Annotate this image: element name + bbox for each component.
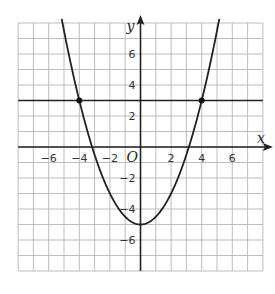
origin-label: O <box>127 149 139 165</box>
coordinate-plane: −6−4−2246642−2−4−6 x y O <box>0 0 275 294</box>
x-tick-label: 2 <box>168 152 175 165</box>
intersection-point <box>76 98 82 104</box>
x-tick-label: −4 <box>71 152 87 165</box>
x-tick-label: 4 <box>198 152 205 165</box>
y-tick-label: −6 <box>119 234 135 247</box>
x-tick-label: 6 <box>229 152 236 165</box>
y-tick-label: −2 <box>119 172 135 185</box>
y-tick-label: 4 <box>129 79 136 92</box>
y-axis-label: y <box>126 18 136 34</box>
x-tick-label: −2 <box>102 152 118 165</box>
y-tick-label: 6 <box>129 48 136 61</box>
y-tick-label: 2 <box>129 110 136 123</box>
x-axis-label: x <box>257 130 265 146</box>
x-tick-label: −6 <box>41 152 57 165</box>
axes <box>18 15 273 271</box>
intersection-point <box>199 98 205 104</box>
